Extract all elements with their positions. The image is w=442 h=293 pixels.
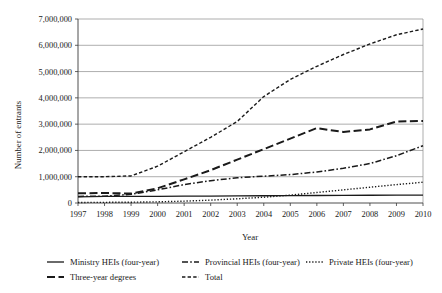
y-axis-title: Number of entrants <box>13 100 23 169</box>
x-tick-label: 2007 <box>335 210 352 219</box>
axes <box>75 19 423 206</box>
legend-label: Provincial HEIs (four-year) <box>205 257 300 267</box>
x-tick-label: 2001 <box>176 210 193 219</box>
series-line <box>78 182 423 202</box>
y-tick-label: 7,000,000 <box>39 15 73 24</box>
x-tick-label: 2005 <box>282 210 299 219</box>
x-tick-label: 2008 <box>362 210 379 219</box>
chart-legend: Ministry HEIs (four-year)Provincial HEIs… <box>47 257 413 282</box>
y-tick-label: 5,000,000 <box>39 68 73 77</box>
legend-label: Total <box>205 272 223 282</box>
x-tick-label: 2002 <box>202 210 219 219</box>
x-tick-labels: 1997199819992000200120022003200420052006… <box>70 210 432 219</box>
x-tick-label: 2010 <box>415 210 432 219</box>
x-tick-label: 1999 <box>123 210 140 219</box>
chart-figure: 01,000,0002,000,0003,000,0004,000,0005,0… <box>0 0 442 293</box>
y-tick-label: 3,000,000 <box>39 120 73 129</box>
x-tick-label: 2006 <box>308 210 325 219</box>
x-tick-label: 2004 <box>255 210 273 219</box>
legend-label: Three-year degrees <box>70 272 137 282</box>
x-tick-label: 1998 <box>96 210 113 219</box>
series-line <box>78 121 423 194</box>
x-tick-label: 2003 <box>229 210 246 219</box>
y-tick-label: 1,000,000 <box>39 173 73 182</box>
legend-label: Private HEIs (four-year) <box>329 257 413 267</box>
line-chart: 01,000,0002,000,0003,000,0004,000,0005,0… <box>0 0 442 293</box>
x-axis-title: Year <box>242 232 258 242</box>
y-tick-label: 0 <box>68 199 72 208</box>
x-tick-label: 2009 <box>388 210 405 219</box>
y-tick-labels: 01,000,0002,000,0003,000,0004,000,0005,0… <box>39 15 73 208</box>
legend-label: Ministry HEIs (four-year) <box>70 257 159 267</box>
y-tick-label: 6,000,000 <box>39 41 73 50</box>
series-line <box>78 195 423 197</box>
y-tick-label: 2,000,000 <box>39 146 73 155</box>
x-tick-label: 2000 <box>149 210 166 219</box>
x-tick-label: 1997 <box>70 210 87 219</box>
y-tick-label: 4,000,000 <box>39 94 73 103</box>
